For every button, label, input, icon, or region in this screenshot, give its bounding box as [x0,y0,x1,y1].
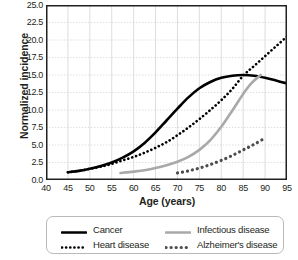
y-tick-label: 22.5 [17,18,43,27]
legend-swatch-alzheimers-disease [165,239,191,250]
x-tick-label: 95 [272,184,298,193]
y-tick-label: 20.0 [17,36,43,45]
legend-label-alzheimers-disease: Alzheimer's disease [197,239,277,250]
y-tick-label: 7.5 [17,123,43,132]
legend-item-heart-disease: Heart disease [61,238,149,251]
legend-label-cancer: Cancer [93,224,122,235]
legend-swatch-cancer [61,224,87,235]
y-tick-label: 17.5 [17,53,43,62]
legend-item-infectious-disease: Infectious disease [165,223,269,236]
y-tick-label: 15.0 [17,71,43,80]
y-tick-label: 10.0 [17,106,43,115]
y-axis-tick-labels: 0.02.55.07.510.012.515.017.520.022.525.0 [14,0,43,260]
legend-label-infectious-disease: Infectious disease [197,224,269,235]
y-tick-label: 25.0 [17,1,43,10]
series-line [120,75,260,173]
y-tick-label: 5.0 [17,141,43,150]
plot-area [46,5,287,180]
legend-item-alzheimers-disease: Alzheimer's disease [165,238,277,251]
chart-figure: Normalized incidence Age (years) 0.02.55… [0,0,298,260]
legend-swatch-heart-disease [61,239,87,250]
y-tick-label: 12.5 [17,88,43,97]
y-tick-label: 2.5 [17,158,43,167]
chart-legend: Cancer Heart disease Infectious disease … [46,216,284,254]
legend-label-heart-disease: Heart disease [93,239,149,250]
chart-canvas [46,5,287,180]
legend-item-cancer: Cancer [61,223,122,236]
x-axis-tick-labels: 404550556065707580859095 [0,184,298,198]
gridlines [46,5,287,180]
legend-swatch-infectious-disease [165,224,191,235]
